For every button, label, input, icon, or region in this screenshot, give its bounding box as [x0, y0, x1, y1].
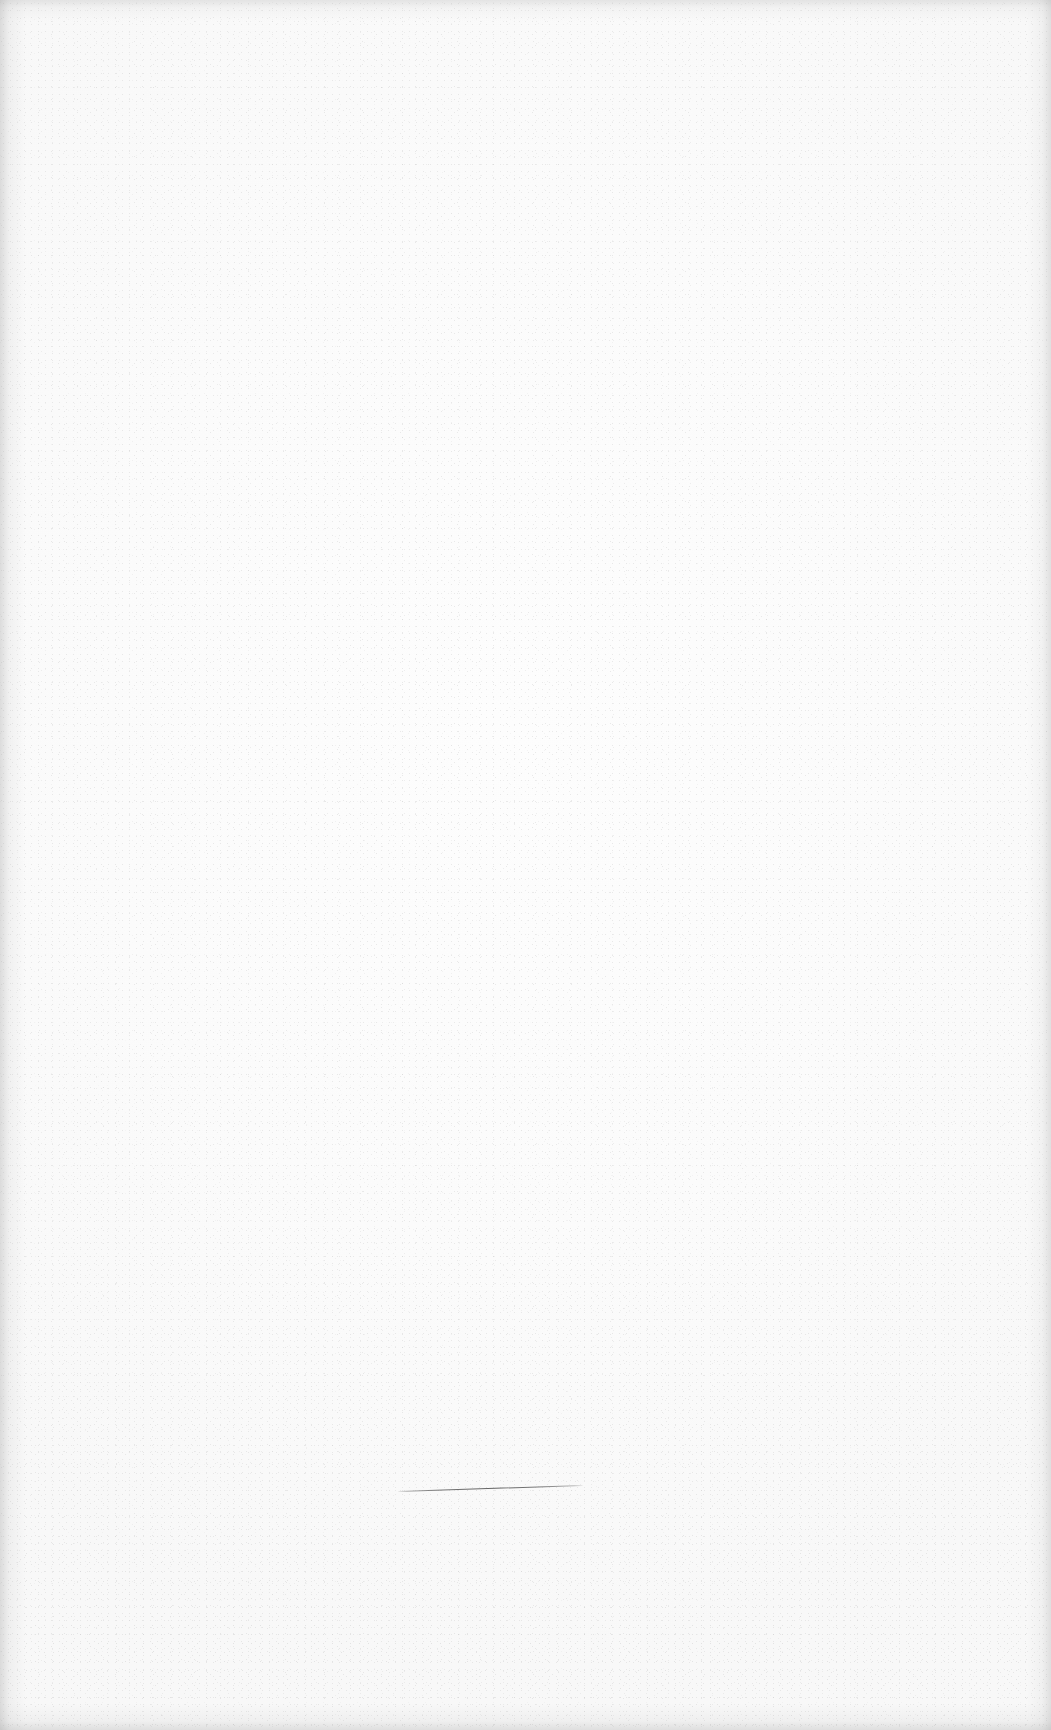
- scanned-page: [0, 0, 1051, 1730]
- paper-background: [0, 0, 1051, 1730]
